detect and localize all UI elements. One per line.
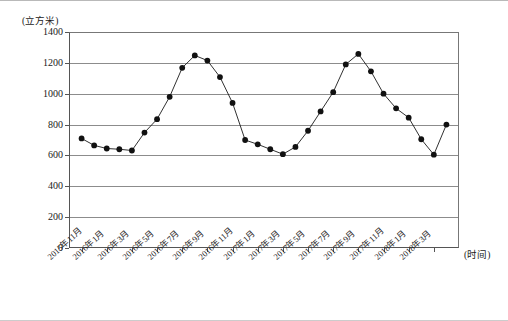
y-axis-tick-label: 800	[17, 120, 63, 130]
data-point-marker	[79, 136, 85, 142]
data-point-marker	[318, 109, 324, 115]
data-point-marker	[242, 137, 248, 143]
y-axis-tick-labels: 0200400600800100012001400	[17, 32, 63, 248]
data-point-marker	[91, 143, 97, 149]
data-point-marker	[330, 89, 336, 95]
y-axis-tick-label: 400	[17, 181, 63, 191]
y-axis-unit-label: (立方米)	[22, 13, 58, 27]
data-point-marker	[255, 141, 261, 147]
data-point-marker	[381, 91, 387, 97]
data-point-marker	[129, 148, 135, 154]
data-point-marker	[280, 151, 286, 157]
data-point-marker	[217, 74, 223, 80]
data-point-marker	[142, 130, 148, 136]
data-point-marker	[293, 144, 299, 150]
data-point-marker	[444, 122, 450, 128]
data-point-marker	[167, 94, 173, 100]
x-axis-tick-labels: 2015年11月2016年1月2016年3月2016年5月2016年7月2016…	[0, 253, 508, 313]
line-series	[69, 32, 459, 248]
data-point-marker	[267, 146, 273, 152]
data-point-marker	[406, 115, 412, 121]
series-line	[82, 54, 447, 155]
y-axis-tick-label: 1000	[17, 89, 63, 99]
y-axis-tick-label: 1400	[17, 27, 63, 37]
data-point-marker	[192, 53, 198, 59]
x-axis-tick-mark	[434, 248, 435, 252]
data-point-marker	[393, 105, 399, 111]
data-point-marker	[305, 128, 311, 134]
data-point-marker	[204, 58, 210, 64]
data-point-marker	[116, 146, 122, 152]
plot-area	[69, 32, 459, 248]
y-axis-tick-label: 200	[17, 212, 63, 222]
y-axis-tick-label: 600	[17, 150, 63, 160]
chart-figure: (立方米) (时间) 0200400600800100012001400 201…	[0, 0, 508, 321]
data-point-marker	[418, 136, 424, 142]
data-point-marker	[154, 116, 160, 122]
data-point-marker	[355, 51, 361, 57]
data-point-marker	[431, 152, 437, 158]
data-point-marker	[179, 65, 185, 71]
data-point-marker	[230, 100, 236, 106]
y-axis-tick-label: 1200	[17, 58, 63, 68]
data-point-marker	[104, 146, 110, 152]
data-point-marker	[343, 62, 349, 68]
data-point-marker	[368, 68, 374, 74]
